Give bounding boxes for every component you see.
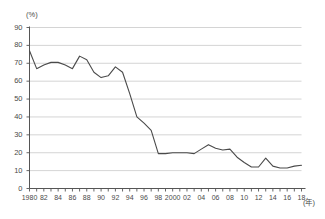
y-axis-tick-label: 70 [5, 58, 23, 67]
y-axis-tick-label: 40 [5, 112, 23, 121]
x-axis-tick-label: 94 [126, 194, 134, 201]
x-axis-tick-label: 10 [240, 194, 248, 201]
x-axis-tick-label: 2000 [165, 194, 181, 201]
gridlines-group [30, 28, 302, 171]
x-axis-tick-label: 16 [283, 194, 291, 201]
x-axis-tick-label: 1980 [22, 194, 38, 201]
x-axis-tick-label: 06 [212, 194, 220, 201]
x-axis-tick-label: 98 [154, 194, 162, 201]
y-axis-tick-label: 60 [5, 76, 23, 85]
x-axis-tick-label: 88 [83, 194, 91, 201]
y-axis-tick-label: 50 [5, 94, 23, 103]
y-axis-tick-label: 90 [5, 23, 23, 32]
x-axis-tick-label: 92 [111, 194, 119, 201]
x-axis-tick-label: 02 [183, 194, 191, 201]
x-axis-tick-label: 90 [97, 194, 105, 201]
data-series-line [30, 51, 302, 168]
y-axis-tick-label: 0 [5, 184, 23, 193]
x-axis-tick-label: 08 [226, 194, 234, 201]
chart-plot-area [0, 0, 325, 219]
line-chart: (%) (年) 0102030405060708090 198082848688… [0, 0, 325, 219]
x-axis-tick-label: 14 [269, 194, 277, 201]
x-axis-tick-label: 18 [298, 194, 306, 201]
x-axis-tick-label: 04 [197, 194, 205, 201]
x-axis-tick-label: 82 [40, 194, 48, 201]
y-axis-tick-label: 80 [5, 40, 23, 49]
x-axis-tick-label: 84 [54, 194, 62, 201]
y-axis-tick-label: 20 [5, 148, 23, 157]
x-axis-tick-label: 86 [69, 194, 77, 201]
x-axis-tick-label: 96 [140, 194, 148, 201]
y-axis-tick-label: 10 [5, 166, 23, 175]
y-axis-tick-label: 30 [5, 130, 23, 139]
x-axis-tick-label: 12 [255, 194, 263, 201]
